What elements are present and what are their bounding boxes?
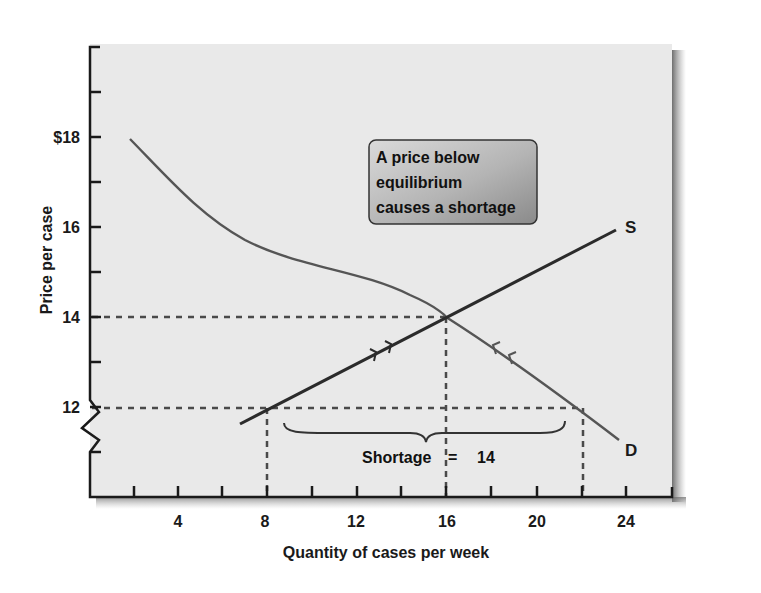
x-tick-label-20: 20 <box>528 513 546 530</box>
y-tick-label-16: 16 <box>62 219 80 236</box>
x-tick-label-8: 8 <box>261 513 270 530</box>
plot-shadow-right <box>672 50 686 502</box>
x-tick-label-4: 4 <box>174 513 183 530</box>
callout-box: A price below equilibrium causes a short… <box>369 140 537 224</box>
plot-area <box>90 44 686 509</box>
x-tick-label-24: 24 <box>617 513 635 530</box>
y-axis-title: Price per case <box>38 206 55 315</box>
callout-line-1: A price below <box>376 149 480 166</box>
plot-background <box>90 44 672 497</box>
supply-demand-chart: $18 16 14 12 4 8 12 16 20 24 Quantity of… <box>0 0 761 593</box>
x-tick-label-12: 12 <box>347 513 365 530</box>
y-tick-label-14: 14 <box>62 309 80 326</box>
callout-line-2: equilibrium <box>376 174 462 191</box>
supply-label: S <box>625 218 636 237</box>
demand-label: D <box>625 441 637 460</box>
plot-shadow-bottom <box>96 497 686 509</box>
shortage-equals: = <box>448 449 457 466</box>
x-tick-label-16: 16 <box>438 513 456 530</box>
shortage-value: 14 <box>477 449 495 466</box>
shortage-label: Shortage <box>362 449 431 466</box>
y-tick-label-12: 12 <box>62 399 80 416</box>
x-axis-title: Quantity of cases per week <box>283 544 489 561</box>
callout-line-3: causes a shortage <box>376 199 516 216</box>
y-tick-label-18: $18 <box>53 129 80 146</box>
